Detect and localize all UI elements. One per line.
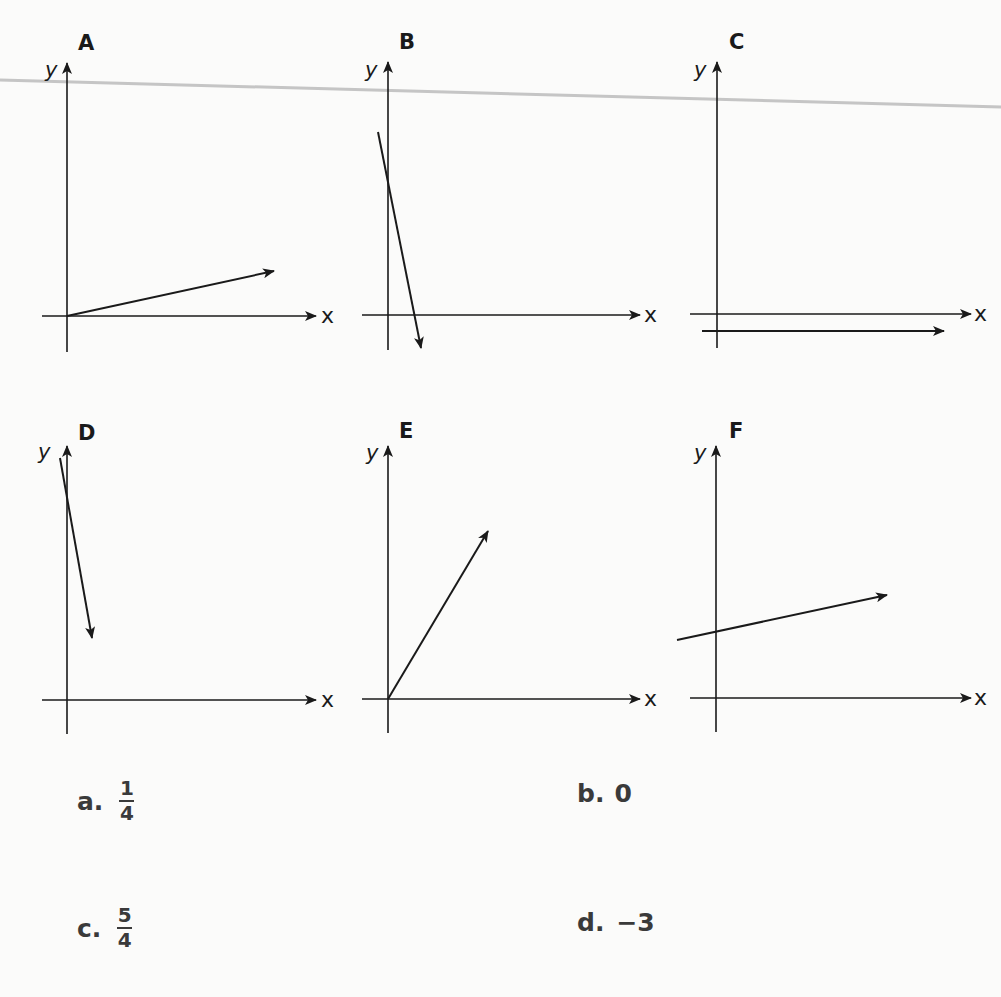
- graphs-figure: [0, 0, 1001, 997]
- paper-crease: [0, 80, 1001, 107]
- option-a-numerator: 1: [120, 778, 134, 799]
- graph-d: [42, 446, 316, 734]
- graph-a-label: A: [78, 31, 94, 55]
- option-a-denominator: 4: [120, 803, 134, 824]
- graph-f: [677, 446, 971, 732]
- option-a-letter: a.: [77, 787, 103, 816]
- graph-a-x-label: x: [321, 303, 334, 328]
- graph-b: [362, 62, 640, 350]
- option-a: a. 1 4: [77, 778, 134, 824]
- option-c: c. 5 4: [77, 905, 132, 951]
- graph-a: [42, 63, 316, 352]
- graph-c-x-label: x: [974, 301, 987, 326]
- graph-b-y-label: y: [365, 58, 377, 82]
- graph-e: [362, 446, 640, 733]
- option-c-fraction: 5 4: [117, 905, 132, 951]
- option-a-fraction: 1 4: [119, 778, 134, 824]
- option-b-letter: b.: [577, 779, 604, 808]
- option-c-letter: c.: [77, 914, 101, 943]
- graph-e-x-label: x: [644, 686, 657, 711]
- graph-c-y-label: y: [694, 58, 706, 82]
- option-c-numerator: 5: [118, 905, 132, 926]
- option-d-letter: d.: [577, 908, 604, 937]
- option-c-denominator: 4: [118, 930, 132, 951]
- graph-d-x-label: x: [321, 687, 334, 712]
- option-b-value: 0: [614, 779, 631, 808]
- graph-c-label: C: [729, 30, 744, 54]
- graph-b-x-label: x: [644, 302, 657, 327]
- option-d-value: −3: [616, 908, 654, 937]
- graph-e-label: E: [399, 419, 413, 443]
- option-b: b. 0: [577, 779, 632, 808]
- graph-d-label: D: [78, 421, 95, 445]
- graph-f-label: F: [729, 419, 743, 443]
- graph-a-y-label: y: [45, 58, 57, 82]
- graph-f-x-label: x: [974, 685, 987, 710]
- option-d: d. −3: [577, 908, 655, 937]
- graph-e-y-label: y: [366, 441, 378, 465]
- graph-d-y-label: y: [38, 440, 50, 464]
- graph-f-y-label: y: [694, 441, 706, 465]
- graph-b-label: B: [399, 30, 415, 54]
